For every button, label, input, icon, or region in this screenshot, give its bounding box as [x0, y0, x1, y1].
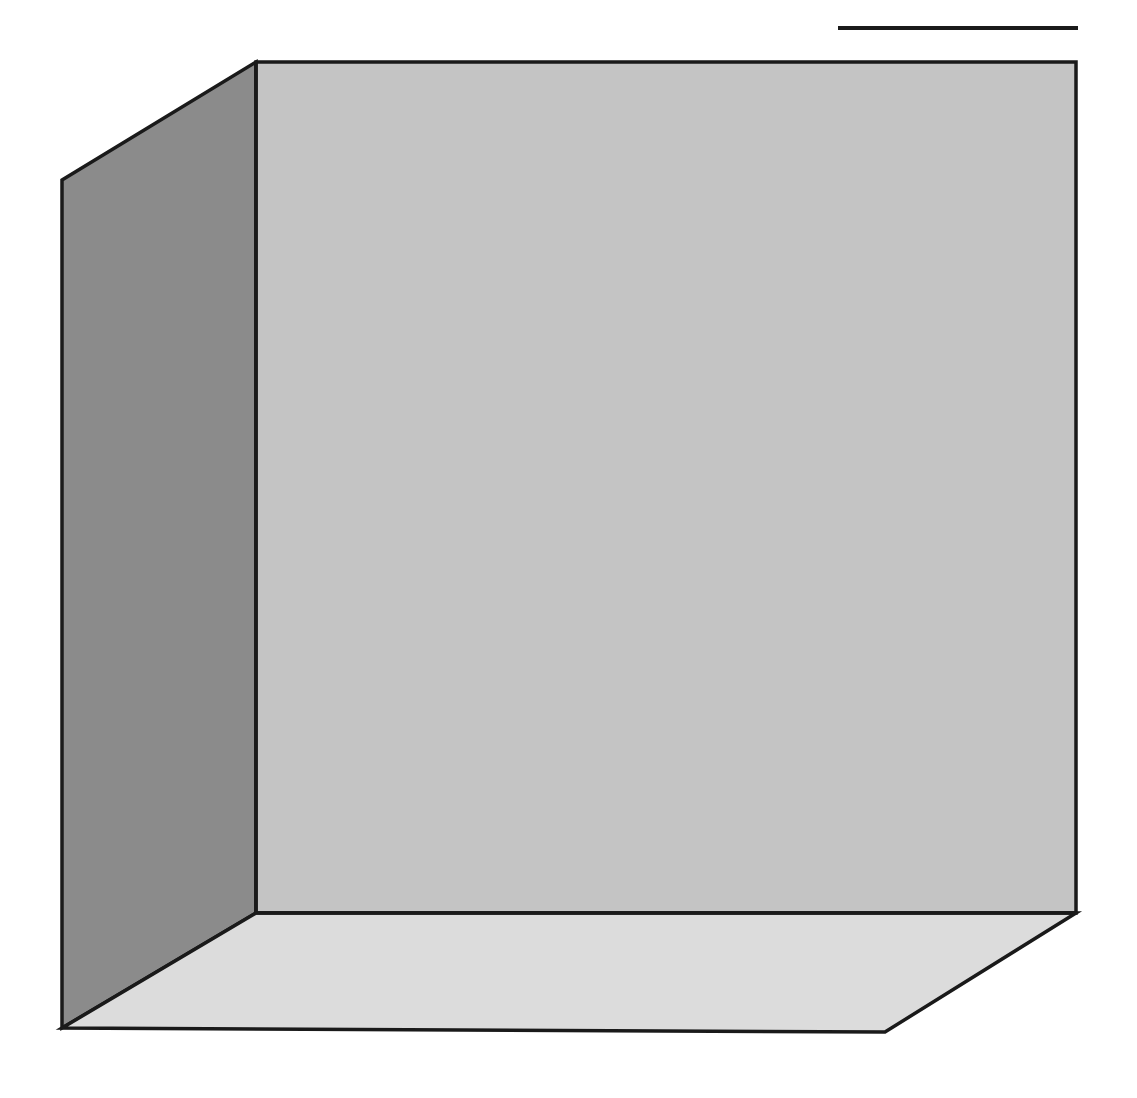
figure-canvas: Open box interior perspective Left wall … [0, 0, 1137, 1098]
box-faces-group [62, 62, 1076, 1032]
face-back-wall [256, 62, 1076, 913]
face-left-wall [62, 62, 256, 1028]
box-perspective-figure [0, 0, 1137, 1098]
